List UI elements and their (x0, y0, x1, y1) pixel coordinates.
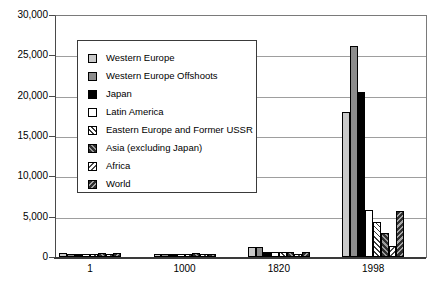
bar-white (177, 254, 185, 257)
bar-dark-gray (350, 46, 358, 257)
dark-gray-swatch-icon (88, 72, 97, 81)
legend-item: Western Europe Offshoots (88, 67, 256, 85)
bar-hatch-fwd-dark (381, 233, 389, 257)
legend-label: Asia (excluding Japan) (106, 143, 202, 153)
bar-hatch-back-dark (302, 252, 310, 257)
bar-light-gray (248, 247, 256, 257)
hatch-fwd-dark-swatch-icon (88, 144, 97, 153)
y-tick (49, 217, 55, 218)
legend-item: Eastern Europe and Former USSR (88, 121, 256, 139)
bar-white (365, 210, 373, 257)
y-tick-label: 30,000 (4, 10, 48, 20)
bar-light-gray (154, 254, 162, 257)
bar-dark-gray (256, 247, 264, 257)
bar-light-gray (342, 112, 350, 257)
bar-chart: 05,00010,00015,00020,00025,00030,000 110… (0, 0, 434, 287)
x-axis-line (54, 257, 426, 259)
legend-label: Western Europe (106, 53, 174, 63)
y-tick-label: 25,000 (4, 50, 48, 60)
bar-dark-gray (161, 254, 169, 257)
legend-item: Africa (88, 157, 256, 175)
bar-group (154, 253, 216, 257)
y-tick (49, 55, 55, 56)
x-tick-label: 1 (87, 263, 93, 275)
legend-item: Asia (excluding Japan) (88, 139, 256, 157)
bar-hatch-fwd-dark (287, 252, 295, 257)
y-tick-label: 0 (4, 252, 48, 262)
y-tick-label: 20,000 (4, 91, 48, 101)
bar-hatch-back-light (389, 246, 397, 257)
bar-black (75, 254, 83, 257)
bar-hatch-fwd-dark (98, 253, 106, 257)
bar-group (248, 247, 310, 257)
y-tick (49, 96, 55, 97)
bar-hatch-back-light (106, 254, 114, 257)
y-tick (49, 15, 55, 16)
legend-item: Western Europe (88, 49, 256, 67)
x-tick-label: 1998 (362, 263, 384, 275)
legend: Western EuropeWestern Europe OffshootsJa… (77, 40, 257, 193)
bar-hatch-back-dark (208, 254, 216, 258)
y-tick (49, 176, 55, 177)
legend-label: Africa (106, 161, 130, 171)
y-tick-label: 15,000 (4, 131, 48, 141)
bar-white (271, 252, 279, 257)
legend-label: World (106, 179, 131, 189)
bar-hatch-fwd-light (373, 222, 381, 257)
legend-item: Latin America (88, 103, 256, 121)
legend-item: World (88, 175, 256, 193)
bar-group (342, 46, 404, 257)
legend-label: Japan (106, 89, 132, 99)
bar-light-gray (59, 253, 67, 257)
x-tick-label: 1820 (268, 263, 290, 275)
bar-hatch-fwd-light (185, 254, 193, 257)
bar-black (263, 252, 271, 257)
y-tick-label: 5,000 (4, 212, 48, 222)
hatch-fwd-light-swatch-icon (88, 126, 97, 135)
bar-hatch-back-dark (113, 253, 121, 257)
bar-group (59, 253, 121, 257)
x-tick-label: 1000 (173, 263, 195, 275)
bar-black (169, 254, 177, 257)
black-swatch-icon (88, 90, 97, 99)
legend-label: Eastern Europe and Former USSR (106, 125, 253, 135)
y-tick (49, 136, 55, 137)
y-tick (49, 257, 55, 258)
bar-hatch-fwd-dark (192, 253, 200, 257)
hatch-back-dark-swatch-icon (88, 180, 97, 189)
legend-item: Japan (88, 85, 256, 103)
legend-label: Latin America (106, 107, 164, 117)
bar-hatch-fwd-light (279, 252, 287, 257)
y-tick-label: 10,000 (4, 171, 48, 181)
bar-hatch-back-light (294, 254, 302, 257)
bar-hatch-back-dark (396, 211, 404, 257)
bar-white (82, 254, 90, 257)
hatch-back-light-swatch-icon (88, 162, 97, 171)
bar-dark-gray (67, 254, 75, 257)
bar-black (358, 92, 366, 257)
light-gray-swatch-icon (88, 54, 97, 63)
white-swatch-icon (88, 108, 97, 117)
bar-hatch-fwd-light (90, 254, 98, 257)
bar-hatch-back-light (200, 254, 208, 257)
legend-label: Western Europe Offshoots (106, 71, 218, 81)
